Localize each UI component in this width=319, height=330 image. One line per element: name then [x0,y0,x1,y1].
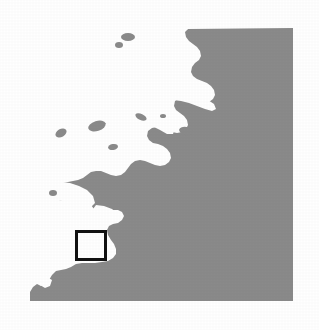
map-canvas [0,0,319,330]
island-3 [160,114,166,118]
study-area-box[interactable] [75,230,107,261]
island-1 [121,33,135,41]
map-vector-layer [0,0,319,330]
coastline-map-figure [0,0,319,330]
island-2 [115,42,123,48]
island-6 [49,190,57,196]
